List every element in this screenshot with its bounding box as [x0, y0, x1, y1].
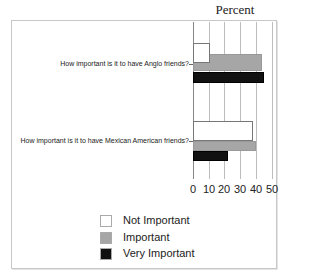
bar-important: [193, 141, 256, 151]
legend-swatch: [100, 232, 112, 244]
category-tick: [189, 141, 193, 142]
category-label: How important is it to have Anglo friend…: [60, 60, 189, 67]
legend-swatch: [100, 215, 112, 227]
bar-not-important: [193, 43, 210, 63]
gridline: [240, 22, 241, 179]
gridline: [272, 22, 273, 179]
category-tick: [189, 64, 193, 65]
category-label: How important is it to have Mexican Amer…: [21, 137, 189, 144]
chart-title: Percent: [195, 2, 275, 18]
bar-very-important: [193, 151, 228, 161]
legend-label: Not Important: [123, 214, 190, 226]
legend-label: Very Important: [123, 247, 195, 259]
bar-not-important: [193, 121, 253, 141]
bar-very-important: [193, 72, 264, 83]
x-tick-label: 50: [262, 183, 282, 195]
gridline: [256, 22, 257, 179]
legend-label: Important: [123, 231, 169, 243]
legend-swatch: [100, 248, 112, 260]
